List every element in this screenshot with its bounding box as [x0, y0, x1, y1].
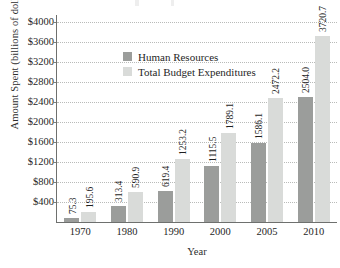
y-axis-tick-label: $2800 [2, 77, 54, 87]
bar: 1789.1 [221, 133, 236, 222]
y-axis-tick-label: $4000 [2, 17, 54, 27]
x-axis-line [56, 222, 337, 223]
bar: 619.4 [158, 191, 173, 222]
legend-item-human-resources: Human Resources [123, 49, 256, 64]
bar: 1253.2 [175, 159, 190, 222]
y-axis-tick-label: $400 [2, 197, 54, 207]
y-axis-tick-label: $1600 [2, 137, 54, 147]
x-axis-tick-label: 2010 [303, 226, 324, 237]
x-axis-title: Year [57, 246, 337, 257]
bar: 1115.5 [204, 166, 219, 222]
y-axis-tick-label: $3200 [2, 57, 54, 67]
y-axis-tick-label: $2000 [2, 117, 54, 127]
legend-label-human-resources: Human Resources [138, 51, 218, 63]
bar-value-label: 590.9 [132, 167, 141, 188]
bar-value-label: 1253.2 [179, 129, 188, 155]
bar: 590.9 [128, 192, 143, 222]
legend-swatch-total-budget [123, 67, 132, 76]
y-axis-tick-labels: $400$800$1200$1600$2000$2400$2800$3200$3… [0, 0, 54, 268]
y-axis-tick-label: $1200 [2, 157, 54, 167]
bar: 313.4 [111, 206, 126, 222]
bar: 1586.1 [251, 143, 266, 222]
bar-value-label: 619.4 [162, 166, 171, 187]
bar-value-label: 1115.5 [208, 137, 217, 162]
chart-legend: Human Resources Total Budget Expenditure… [123, 49, 256, 79]
bar: 195.6 [81, 212, 96, 222]
bar-chart: Amount Spent (billions of dollars) $400$… [0, 0, 340, 268]
bar-value-label: 313.4 [115, 181, 124, 202]
bar: 2472.2 [268, 98, 283, 222]
x-axis-tick-label: 1990 [163, 226, 184, 237]
bar-value-label: 3720.7 [319, 6, 328, 32]
y-axis-tick-label: $2400 [2, 97, 54, 107]
x-axis-tick-label: 1980 [117, 226, 138, 237]
bar-value-label: 195.6 [85, 187, 94, 208]
legend-label-total-budget: Total Budget Expenditures [138, 66, 256, 78]
bar-group: 2504.03720.7 [290, 22, 337, 222]
bar: 2504.0 [298, 97, 313, 222]
legend-swatch-human-resources [123, 52, 132, 61]
bar-value-label: 2472.2 [272, 68, 281, 94]
x-axis-tick-label: 2000 [210, 226, 231, 237]
y-axis-tick-label: $3600 [2, 37, 54, 47]
x-axis-tick-labels: 197019801990200020052010 [57, 226, 337, 240]
bar: 75.3 [64, 218, 79, 222]
x-axis-tick-label: 2005 [257, 226, 278, 237]
bar-value-label: 75.3 [68, 198, 77, 215]
bar: 3720.7 [315, 36, 330, 222]
legend-item-total-budget: Total Budget Expenditures [123, 64, 256, 79]
cropped-chart-title [120, 0, 230, 6]
x-axis-tick-label: 1970 [70, 226, 91, 237]
y-axis-tick-label: $800 [2, 177, 54, 187]
bar-value-label: 1586.1 [255, 113, 264, 139]
bar-value-label: 1789.1 [225, 102, 234, 128]
plot-area: 75.3195.6313.4590.9619.41253.21115.51789… [57, 22, 337, 222]
bar-group: 75.3195.6 [57, 22, 104, 222]
bar-value-label: 2504.0 [302, 67, 311, 93]
